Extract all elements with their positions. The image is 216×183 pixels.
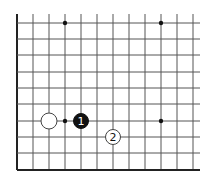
star-point-icon xyxy=(159,21,163,25)
black-stone: 1 xyxy=(74,114,89,129)
move-number: 2 xyxy=(110,131,117,144)
white-stone: 2 xyxy=(106,130,121,145)
board-grid xyxy=(17,14,200,170)
star-point-icon xyxy=(63,119,67,123)
go-board: 12 xyxy=(0,0,216,183)
star-point-icon xyxy=(159,119,163,123)
white-stone xyxy=(41,113,57,129)
star-point-icon xyxy=(63,21,67,25)
move-number: 1 xyxy=(78,115,85,128)
